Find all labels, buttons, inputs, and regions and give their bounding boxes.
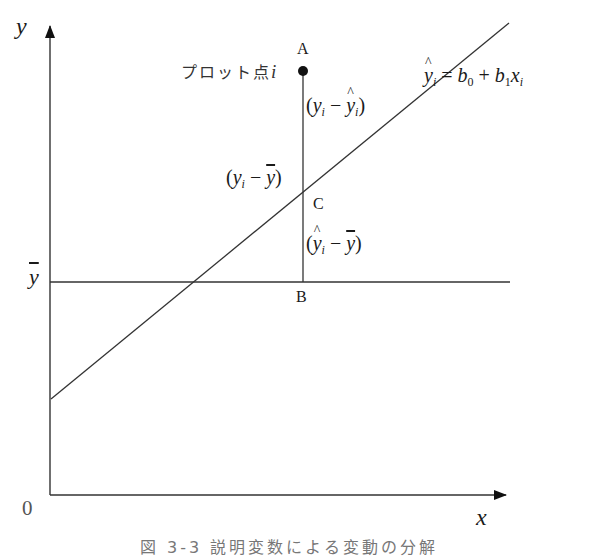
paren-close: ) <box>358 94 365 116</box>
paren-open: ( <box>306 232 313 254</box>
y-bar-symbol: y <box>266 166 275 188</box>
paren-open: ( <box>226 166 233 188</box>
plot-point-text: プロット点 <box>181 63 271 82</box>
point-a-label: A <box>297 41 309 57</box>
origin-label: 0 <box>22 498 33 519</box>
x-symbol: x <box>511 64 520 86</box>
minus-sign: − <box>325 232 346 254</box>
subscript-i: i <box>520 75 523 89</box>
plus-sign: + <box>474 64 495 86</box>
plot-point-a <box>298 66 308 76</box>
explained-deviation-label: (yi − y) <box>306 233 362 256</box>
y-bar-symbol: y <box>346 232 355 254</box>
plot-point-index: i <box>271 61 276 82</box>
y-axis-label: y <box>16 14 27 38</box>
paren-open: ( <box>306 94 313 116</box>
minus-sign: − <box>245 166 266 188</box>
y-hat-symbol: y <box>346 95 355 115</box>
paren-close: ) <box>355 232 362 254</box>
b0-symbol: b <box>458 64 468 86</box>
mean-y-label: y <box>29 266 39 288</box>
point-c-label: C <box>313 196 324 212</box>
minus-sign: − <box>325 94 346 116</box>
total-deviation-label: (yi − y) <box>226 167 282 190</box>
figure-caption: 図 3-3 説明変数による変動の分解 <box>140 540 438 556</box>
point-b-label: B <box>296 289 307 305</box>
equals-sign: = <box>436 64 457 86</box>
x-axis-label: x <box>476 505 487 529</box>
y-symbol: y <box>233 166 242 188</box>
y-symbol: y <box>313 94 322 116</box>
paren-close: ) <box>275 166 282 188</box>
residual-deviation-label: (yi − yi) <box>306 95 365 118</box>
regression-equation: yi = b0 + b1xi <box>424 65 523 88</box>
y-hat-symbol: y <box>424 65 433 85</box>
plot-point-label: プロット点i <box>181 62 276 81</box>
b1-symbol: b <box>495 64 505 86</box>
y-hat-symbol: y <box>313 233 322 253</box>
